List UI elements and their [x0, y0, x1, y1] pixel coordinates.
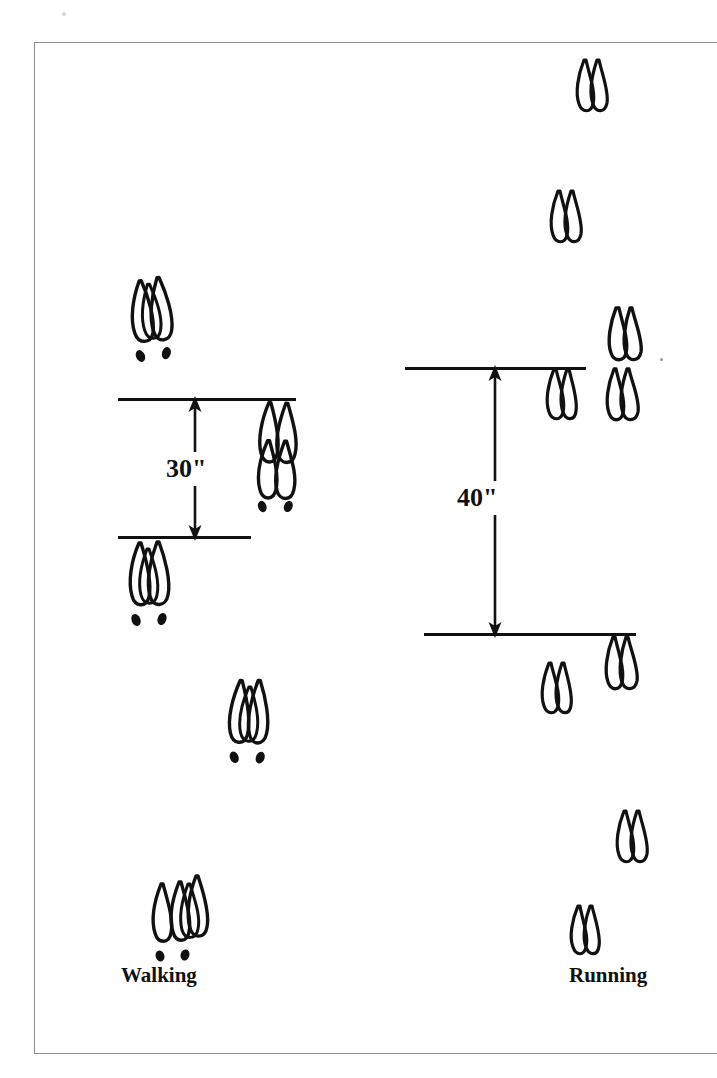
deer-track-running-single-icon	[608, 808, 652, 868]
deer-track-running-single-icon	[539, 367, 581, 425]
scan-speck	[660, 358, 663, 361]
measurement-label-walking-stride: 30"	[161, 452, 211, 486]
deer-track-walking-double-icon	[246, 400, 308, 514]
deer-track-walking-double-icon	[119, 272, 187, 368]
deer-track-running-single-icon	[597, 635, 642, 696]
deer-track-walking-double-icon	[217, 675, 282, 770]
deer-track-running-single-icon	[542, 188, 586, 248]
deer-track-running-single-icon	[600, 305, 646, 367]
measurement-label-running-stride: 40"	[452, 481, 502, 515]
deer-track-running-single-icon	[598, 366, 643, 427]
deer-track-running-single-icon	[534, 660, 576, 718]
scan-speck	[62, 12, 66, 16]
deer-track-running-single-icon	[568, 57, 612, 117]
deer-track-running-single-icon	[563, 903, 604, 959]
gait-label-running: Running	[569, 963, 647, 988]
figure-canvas: 30" 40" Walking Running	[0, 0, 717, 1078]
deer-track-walking-double-icon	[120, 540, 180, 632]
deer-track-walking-triple-icon	[146, 872, 226, 968]
